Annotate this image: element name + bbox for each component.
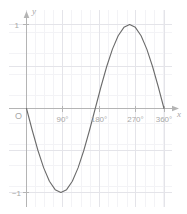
x-tick-label-90: 90° [56,115,68,124]
sine-graph-figure: y x O 1 −1 90° 180° 270° 360° [0,0,187,214]
y-axis-label: y [31,6,36,16]
x-tick-label-180: 180° [91,115,108,124]
x-axis-label: x [176,109,181,119]
y-axis-arrow [24,11,30,18]
plot-area: y x O 1 −1 90° 180° 270° 360° [0,0,187,214]
origin-label: O [15,111,22,121]
x-tick-label-360: 360° [156,115,173,124]
x-tick-label-270: 270° [127,115,144,124]
y-tick-label-minus-1: −1 [12,189,22,198]
y-tick-label-1: 1 [15,21,20,30]
x-axis [9,106,179,112]
